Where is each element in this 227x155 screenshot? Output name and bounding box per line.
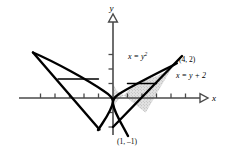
y-axis-label: y: [109, 3, 114, 13]
label-parabola: x = y2: [127, 51, 148, 61]
label-point-upper: (4, 2): [179, 55, 196, 64]
label-point-lower: (1, –1): [117, 137, 137, 146]
label-line: x = y + 2: [175, 71, 206, 80]
math-figure-parabola-line-region: x = y2 x = y + 2 (4, 2) (1, –1) x y: [0, 0, 227, 155]
x-axis-label: x: [211, 93, 216, 103]
